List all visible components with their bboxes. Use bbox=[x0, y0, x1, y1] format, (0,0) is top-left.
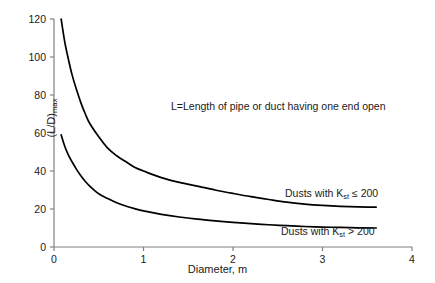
y-tick-label-100: 100 bbox=[12, 52, 46, 63]
series-label-0-suffix: ≤ 200 bbox=[349, 187, 378, 199]
y-tick-label-0: 0 bbox=[12, 242, 46, 253]
axes-group bbox=[50, 19, 412, 251]
x-tick-label-0: 0 bbox=[39, 254, 69, 265]
y-tick-label-120: 120 bbox=[12, 14, 46, 25]
x-tick-label-3: 3 bbox=[308, 254, 338, 265]
y-axis-title: (L/D)max bbox=[46, 73, 57, 163]
chart-figure: (L/D)max Diameter, m L=Length of pipe or… bbox=[0, 0, 435, 283]
y-tick-label-60: 60 bbox=[12, 128, 46, 139]
y-tick-label-80: 80 bbox=[12, 90, 46, 101]
series-label-0-subscript: st bbox=[343, 192, 349, 201]
y-axis-title-subscript: max bbox=[50, 99, 59, 114]
series-curve-0 bbox=[61, 19, 376, 207]
series-label-1-suffix: > 200 bbox=[345, 225, 375, 237]
y-tick-label-40: 40 bbox=[12, 166, 46, 177]
series-label-1-subscript: st bbox=[339, 230, 345, 239]
x-tick-label-1: 1 bbox=[129, 254, 159, 265]
definition-note-annotation: L=Length of pipe or duct having one end … bbox=[171, 101, 386, 112]
series-label-1-prefix: Dusts with K bbox=[281, 225, 339, 237]
y-tick-label-20: 20 bbox=[12, 204, 46, 215]
series-label-0-prefix: Dusts with K bbox=[285, 187, 343, 199]
x-axis-title: Diameter, m bbox=[0, 264, 435, 275]
x-tick-label-2: 2 bbox=[218, 254, 248, 265]
series-label-kst-gt-200: Dusts with Kst > 200 bbox=[281, 226, 375, 237]
x-tick-label-4: 4 bbox=[397, 254, 427, 265]
series-label-kst-lte-200: Dusts with Kst ≤ 200 bbox=[285, 188, 378, 199]
y-axis-title-base: (L/D) bbox=[45, 113, 57, 137]
plot-canvas bbox=[0, 0, 435, 283]
